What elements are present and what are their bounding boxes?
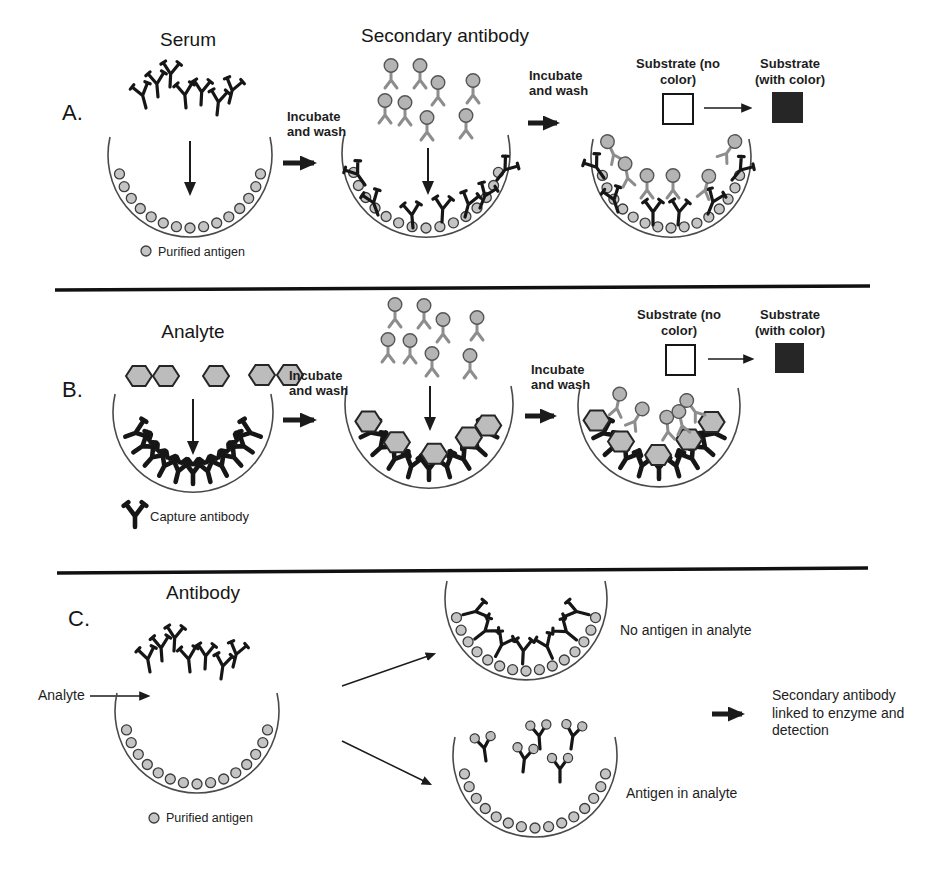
- enzyme-linked-secondary-antibody-icon: [436, 313, 450, 342]
- purified-antigen-icon: [231, 768, 241, 778]
- substrate-with-color-swatch-a: [772, 92, 803, 123]
- microtiter-well: [115, 693, 279, 793]
- purified-antigen-icon: [559, 655, 569, 665]
- purified-antigen-icon: [471, 793, 481, 803]
- incubate-wash-label-a2: Incubate and wash: [529, 68, 595, 99]
- enzyme-linked-secondary-antibody-icon: [696, 168, 717, 200]
- purified-antigen-icon: [135, 204, 145, 214]
- enzyme-linked-secondary-antibody-icon: [420, 111, 434, 140]
- enzyme-linked-secondary-antibody-icon: [470, 311, 484, 340]
- enzyme-linked-secondary-antibody-icon: [625, 400, 652, 432]
- purified-antigen-icon: [666, 223, 676, 233]
- capture-antibody-icon: [124, 502, 147, 527]
- purified-antigen-icon: [165, 774, 175, 784]
- antibody-icon: [668, 199, 691, 226]
- antibody-icon: [207, 88, 230, 116]
- purified-antigen-icon: [153, 768, 163, 778]
- substrate-no-color-label-a: Substrate (no color): [632, 56, 724, 89]
- antibody-icon: [550, 616, 583, 648]
- purified-antigen-icon: [421, 223, 431, 233]
- purified-antigen-icon: [547, 661, 557, 671]
- enzyme-linked-secondary-antibody-icon: [417, 299, 431, 328]
- purified-antigen-icon: [244, 193, 254, 203]
- purified-antigen-icon: [601, 769, 611, 779]
- purified-antigen-icon: [235, 204, 245, 214]
- analyte-antigen-icon: [126, 366, 152, 386]
- purified-antigen-icon: [544, 822, 554, 832]
- purified-antigen-icon: [730, 183, 740, 193]
- substrate-with-color-label-b: Substrate (with color): [744, 307, 836, 340]
- purified-antigen-icon: [381, 212, 391, 222]
- purified-antigen-icon: [206, 778, 216, 788]
- purified-antigen-icon: [508, 665, 518, 675]
- incubate-wash-label-a1: Incubate and wash: [287, 109, 353, 140]
- purified-antigen-icon: [224, 212, 234, 222]
- enzyme-linked-secondary-antibody-icon: [403, 334, 417, 363]
- analyte-antigen-icon: [249, 365, 275, 385]
- purified-antigen-icon: [480, 804, 490, 814]
- purified-antigen-icon: [452, 613, 462, 623]
- purified-antigen-icon: [126, 738, 136, 748]
- no-antigen-label: No antigen in analyte: [620, 622, 780, 640]
- purified-antigen-icon: [591, 613, 601, 623]
- analyte-antigen-icon: [584, 410, 610, 430]
- purified-antigen-icon: [503, 818, 513, 828]
- purified-antigen-icon: [534, 665, 544, 675]
- enzyme-linked-secondary-antibody-icon: [459, 109, 473, 138]
- antibody-icon: [177, 645, 200, 673]
- substrate-with-color-label-a: Substrate (with color): [744, 56, 836, 89]
- branch-arrow-upper-c: [342, 654, 434, 686]
- purified-antigen-icon: [679, 222, 689, 232]
- purified-antigen-icon: [251, 749, 261, 759]
- purified-antigen-icon: [589, 793, 599, 803]
- antibody-icon: [211, 652, 235, 680]
- substrate-no-color-swatch-a: [663, 94, 693, 124]
- purified-antigen-legend-c: Purified antigen: [166, 812, 253, 826]
- antibody-icon: [219, 76, 245, 106]
- purified-antigen-icon: [126, 193, 136, 203]
- purified-antigen-icon: [570, 647, 580, 657]
- antibody-icon: [562, 598, 592, 624]
- enzyme-linked-secondary-antibody-icon: [463, 349, 477, 378]
- purified-antigen-icon: [146, 212, 156, 222]
- antibody-antigen-complex-icon: [510, 742, 538, 773]
- purified-antigen-icon: [192, 779, 202, 789]
- purified-antigen-icon: [199, 222, 209, 232]
- branch-arrow-lower-c: [342, 741, 430, 784]
- substrate-with-color-swatch-b: [775, 343, 804, 373]
- enzyme-linked-secondary-antibody-icon: [384, 59, 398, 88]
- antibody-icon: [512, 638, 534, 665]
- purified-antigen-icon: [258, 738, 268, 748]
- purified-antigen-icon: [219, 774, 229, 784]
- antibody-icon: [460, 598, 490, 624]
- analyte-antigen-icon: [384, 432, 410, 452]
- purified-antigen-icon: [521, 666, 531, 676]
- analyte-title: Analyte: [153, 322, 233, 343]
- purified-antigen-icon: [464, 782, 474, 792]
- section-c-label: C.: [68, 608, 90, 630]
- enzyme-linked-secondary-antibody-icon: [617, 156, 635, 187]
- enzyme-linked-secondary-antibody-icon: [425, 347, 439, 376]
- purified-antigen-icon: [456, 625, 466, 635]
- antibody-antigen-complex-icon: [547, 753, 572, 782]
- section-divider-1: [55, 286, 870, 290]
- enzyme-linked-secondary-antibody-icon: [609, 386, 628, 417]
- purified-antigen-icon: [569, 812, 579, 822]
- purified-antigen-icon: [557, 818, 567, 828]
- enzyme-linked-secondary-antibody-icon: [413, 59, 427, 88]
- enzyme-linked-secondary-antibody-icon: [666, 169, 680, 198]
- antibody-icon: [173, 82, 196, 109]
- purified-antigen-icon: [185, 223, 195, 233]
- antigen-label: Antigen in analyte: [626, 785, 766, 803]
- purified-antigen-icon: [596, 782, 606, 792]
- microtiter-well: [445, 581, 607, 680]
- purified-antigen-icon: [448, 218, 458, 228]
- purified-antigen-icon: [142, 760, 152, 770]
- purified-antigen-icon: [171, 222, 181, 232]
- purified-antigen-icon: [141, 246, 151, 256]
- diagram-canvas: [0, 0, 929, 889]
- enzyme-linked-secondary-antibody-icon: [378, 94, 392, 123]
- enzyme-linked-secondary-antibody-icon: [381, 333, 395, 362]
- purified-antigen-icon: [435, 222, 445, 232]
- analyte-antigen-icon: [203, 366, 229, 386]
